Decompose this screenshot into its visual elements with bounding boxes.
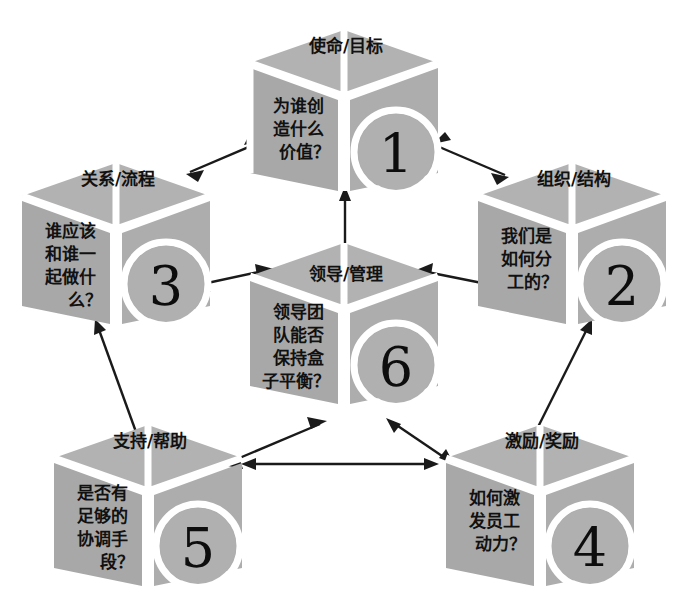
box-3-cube[interactable]: 关系/流程 谁应该 和谁一 起做什 么？ 3 [22, 163, 210, 326]
box-4-category: 激励/奖励 [505, 431, 579, 451]
box-6-number: 6 [379, 336, 413, 399]
box-4-number: 4 [573, 517, 607, 580]
box-5-number: 5 [181, 517, 215, 580]
box-2-question: 我们是 如何分 工的？ [501, 226, 558, 292]
diagram-canvas: 使命/目标 为谁创 造什么 价值？ 1 关系/流程 谁应该 和谁一 起做什 么？… [0, 0, 686, 616]
box-1-category: 使命/目标 [308, 36, 383, 56]
box-1-number: 1 [379, 123, 413, 186]
box-1-question: 为谁创 造什么 价值？ [273, 96, 330, 162]
box-5-cube[interactable]: 支持/帮助 是否有 足够的 协调手 段？ 5 [54, 425, 242, 588]
box-4-cube[interactable]: 激励/奖励 如何激 发员工 动力？ 4 [446, 425, 634, 588]
six-box-model-diagram: 使命/目标 为谁创 造什么 价值？ 1 关系/流程 谁应该 和谁一 起做什 么？… [0, 0, 686, 616]
box-5-category: 支持/帮助 [113, 431, 187, 451]
box-2-cube[interactable]: 组织/结构 我们是 如何分 工的？ 2 [478, 163, 666, 326]
box-1-cube[interactable]: 使命/目标 为谁创 造什么 价值？ 1 [250, 30, 438, 194]
box-6-category: 领导/管理 [309, 264, 383, 284]
box-2-number: 2 [605, 255, 639, 318]
box-3-number: 3 [149, 255, 183, 318]
box-3-category: 关系/流程 [81, 169, 155, 189]
box-2-category: 组织/结构 [537, 169, 611, 189]
box-4-question: 如何激 发员工 动力？ [468, 488, 526, 554]
box-6-cube[interactable]: 领导/管理 领导团 队能否 保持盒 子平衡？ 6 [250, 243, 438, 407]
